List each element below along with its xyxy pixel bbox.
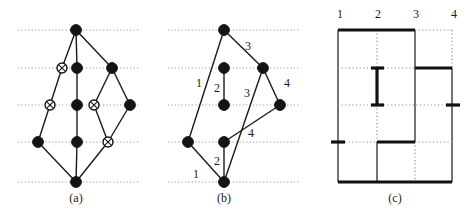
panel-a-edge xyxy=(76,30,112,68)
panel-b-edge xyxy=(263,68,280,105)
panel-a-edge xyxy=(76,142,108,182)
panel-caption-b: (b) xyxy=(217,191,231,205)
panel-a-node-hatched xyxy=(45,100,55,110)
panel-b-edge-label: 3 xyxy=(245,39,251,53)
panel-c-wires-layer xyxy=(331,30,460,182)
panel-b-node-solid xyxy=(275,100,286,111)
panel-a-edge xyxy=(50,68,62,105)
panel-b-edge-label: 1 xyxy=(196,76,202,90)
panel-b-node-solid xyxy=(219,63,230,74)
figure-container: 312344211234(a)(b)(c) xyxy=(0,0,474,215)
panel-a-node-solid xyxy=(125,100,136,111)
gridlines-layer xyxy=(18,30,300,182)
panel-a-node-solid xyxy=(71,177,82,188)
panel-a-node-hatched xyxy=(89,100,99,110)
figure-svg: 312344211234(a)(b)(c) xyxy=(0,0,474,215)
panel-a-node-solid xyxy=(72,63,83,74)
panel-a-node-solid xyxy=(72,100,83,111)
panel-a-edge xyxy=(112,68,130,105)
panel-b-edge-label: 1 xyxy=(193,167,199,181)
panel-b-node-solid xyxy=(219,25,230,36)
panel-b-edge-label: 2 xyxy=(214,154,220,168)
panel-b-node-solid xyxy=(183,137,194,148)
panel-c-column-label: 2 xyxy=(375,7,381,21)
panel-b-node-solid xyxy=(258,63,269,74)
panel-a-edge xyxy=(94,105,108,142)
panel-b-edge-label: 4 xyxy=(284,76,290,90)
panel-a-edge xyxy=(94,68,112,105)
panel-b-edge-label: 3 xyxy=(244,86,250,100)
panel-a-node-solid xyxy=(107,63,118,74)
panel-c-column-label: 1 xyxy=(337,7,343,21)
panel-b-edge-label: 2 xyxy=(214,81,220,95)
panel-a-node-hatched xyxy=(57,63,67,73)
panel-a-node-solid xyxy=(71,25,82,36)
panel-b-node-solid xyxy=(219,100,230,111)
panel-a-edge xyxy=(108,105,130,142)
panel-c-column-label: 4 xyxy=(451,7,457,21)
panel-b-node-solid xyxy=(219,177,230,188)
panel-caption-c: (c) xyxy=(388,191,401,205)
panel-a-node-solid xyxy=(33,137,44,148)
panel-b-node-solid xyxy=(219,137,230,148)
panel-a-node-hatched xyxy=(103,137,113,147)
panel-caption-a: (a) xyxy=(69,191,82,205)
panel-a-node-solid xyxy=(72,137,83,148)
panel-a-edge xyxy=(38,142,76,182)
panel-a-edge xyxy=(76,142,77,182)
panel-b-edge xyxy=(224,30,263,68)
panel-c-column-label: 3 xyxy=(413,7,419,21)
panel-b-edge-label: 4 xyxy=(248,126,254,140)
panel-a-edge xyxy=(62,30,76,68)
